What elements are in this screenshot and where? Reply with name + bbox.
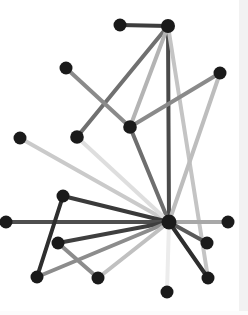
graph-node[interactable] — [123, 120, 137, 134]
graph-node[interactable] — [57, 190, 70, 203]
graph-node[interactable] — [14, 132, 27, 145]
graph-edge — [167, 222, 169, 292]
graph-edge — [120, 25, 168, 26]
graph-edge — [168, 26, 169, 222]
graph-node[interactable] — [92, 272, 105, 285]
graph-node[interactable] — [222, 216, 235, 229]
graph-node[interactable] — [214, 67, 227, 80]
graph-node[interactable] — [60, 62, 73, 75]
graph-node[interactable] — [161, 19, 175, 33]
graph-node[interactable] — [31, 271, 44, 284]
graph-node[interactable] — [70, 130, 84, 144]
graph-node[interactable] — [161, 286, 174, 299]
graph-background — [0, 0, 248, 315]
graph-node[interactable] — [162, 215, 177, 230]
node-link-graph-figure — [0, 0, 248, 315]
graph-node[interactable] — [0, 216, 13, 229]
graph-node[interactable] — [202, 272, 215, 285]
graph-node[interactable] — [201, 237, 214, 250]
graph-node[interactable] — [114, 19, 127, 32]
graph-canvas — [0, 0, 248, 315]
graph-node[interactable] — [52, 237, 65, 250]
